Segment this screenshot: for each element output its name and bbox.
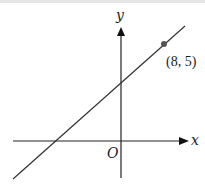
x-axis-arrow-icon [179,137,189,145]
graph-line [13,26,185,179]
origin-label: O [107,145,119,161]
coordinate-diagram: y x O (8, 5) [0,0,205,189]
y-axis-arrow-icon [117,27,125,36]
point-label: (8, 5) [166,54,197,70]
y-axis-label: y [115,7,125,23]
x-axis-label: x [191,132,199,148]
point-marker [161,41,167,47]
